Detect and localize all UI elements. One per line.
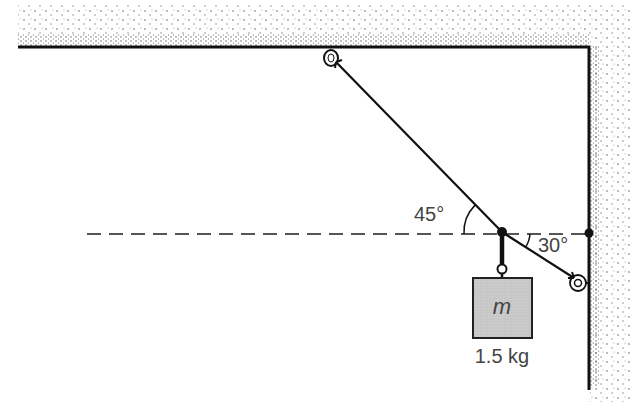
statics-diagram: 45° 30° m 1.5 kg xyxy=(0,0,630,402)
wall-hatching xyxy=(590,34,630,402)
angle-label-45: 45° xyxy=(414,203,444,225)
mass-value-label: 1.5 kg xyxy=(475,345,529,367)
angle-label-30: 30° xyxy=(538,234,568,256)
ceiling-hatching xyxy=(18,4,630,46)
angle-arc-45 xyxy=(464,205,475,234)
wall-point-marker xyxy=(585,229,594,238)
angle-arc-30 xyxy=(526,234,530,247)
hanger-ring xyxy=(498,265,507,274)
mass-symbol: m xyxy=(493,294,511,319)
wall-eyebolt-icon xyxy=(570,275,589,291)
